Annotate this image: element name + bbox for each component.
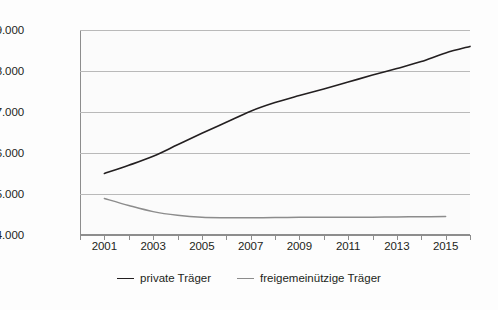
legend-swatch-icon — [237, 278, 254, 279]
legend-label: freigemeinützige Träger — [260, 272, 381, 284]
gridline — [80, 153, 470, 154]
gridline — [80, 112, 470, 113]
y-axis-tick-label: 5.000 — [0, 188, 24, 200]
line-chart: 4.0005.0006.0007.0008.0009.000 200120032… — [0, 0, 498, 310]
legend-label: private Träger — [140, 272, 211, 284]
y-axis-tick-label: 6.000 — [0, 147, 24, 159]
gridline — [80, 71, 470, 72]
y-axis-tick-label: 7.000 — [0, 106, 24, 118]
y-axis-tick-label: 4.000 — [0, 229, 24, 241]
y-axis-tick-label: 9.000 — [0, 24, 24, 36]
x-axis-tick-label: 2015 — [416, 240, 476, 252]
y-axis-tick-label: 8.000 — [0, 65, 24, 77]
legend-item-freigemeinuetzige-traeger: freigemeinützige Träger — [237, 272, 381, 284]
chart-legend: private Träger freigemeinützige Träger — [0, 272, 498, 284]
gridline — [80, 194, 470, 195]
plot-area — [80, 30, 470, 235]
legend-item-private-traeger: private Träger — [117, 272, 211, 284]
gridline — [80, 30, 470, 31]
legend-swatch-icon — [117, 278, 134, 279]
